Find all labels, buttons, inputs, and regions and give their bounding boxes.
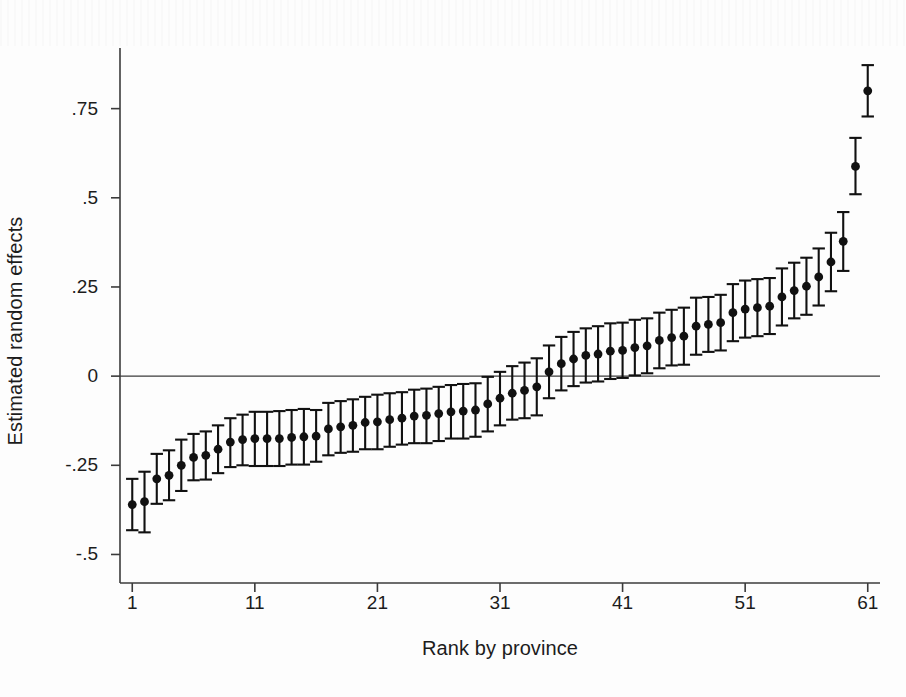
data-point-38 — [580, 328, 592, 382]
marker-11 — [250, 434, 259, 443]
x-axis-title: Rank by province — [120, 637, 880, 660]
data-point-15 — [298, 409, 310, 465]
marker-46 — [679, 332, 688, 341]
marker-30 — [483, 400, 492, 409]
data-point-53 — [763, 278, 775, 334]
marker-38 — [581, 351, 590, 360]
data-point-52 — [751, 279, 763, 336]
data-point-49 — [714, 295, 726, 351]
data-point-8 — [212, 425, 224, 473]
marker-17 — [324, 425, 333, 434]
marker-39 — [594, 350, 603, 359]
random-effects-series — [126, 65, 874, 532]
marker-48 — [704, 320, 713, 329]
marker-49 — [716, 318, 725, 327]
marker-55 — [790, 286, 799, 295]
marker-34 — [532, 382, 541, 391]
marker-44 — [655, 336, 664, 345]
x-tick-label-2: 21 — [347, 592, 407, 614]
marker-6 — [189, 453, 198, 462]
marker-43 — [643, 341, 652, 350]
x-tick-label-4: 41 — [593, 592, 653, 614]
data-point-5 — [175, 440, 187, 491]
data-point-31 — [494, 372, 506, 426]
data-point-19 — [347, 399, 359, 451]
data-point-11 — [249, 412, 261, 466]
marker-10 — [238, 435, 247, 444]
data-point-4 — [163, 450, 175, 500]
marker-31 — [496, 394, 505, 403]
marker-51 — [741, 305, 750, 314]
data-point-44 — [653, 313, 665, 369]
data-point-35 — [543, 345, 555, 398]
data-point-30 — [482, 377, 494, 432]
data-point-60 — [849, 138, 861, 194]
marker-9 — [226, 438, 235, 447]
data-point-50 — [727, 284, 739, 341]
y-axis-title: Estimated random effects — [0, 51, 30, 611]
marker-53 — [765, 302, 774, 311]
data-point-21 — [371, 395, 383, 450]
data-point-47 — [690, 298, 702, 355]
figure-container: -.5-.250.25.5.75 1112131415161 Estimated… — [0, 0, 906, 697]
data-point-48 — [702, 297, 714, 352]
data-point-2 — [138, 472, 150, 533]
marker-20 — [361, 418, 370, 427]
marker-19 — [349, 421, 358, 430]
y-tick-label-4: .5 — [28, 187, 98, 209]
marker-3 — [152, 474, 161, 483]
x-tick-label-1: 11 — [225, 592, 285, 614]
x-tick-label-3: 31 — [470, 592, 530, 614]
marker-60 — [851, 162, 860, 171]
marker-28 — [459, 407, 468, 416]
y-tick-label-5: .75 — [28, 98, 98, 120]
data-point-10 — [236, 415, 248, 466]
data-point-25 — [420, 389, 432, 444]
data-point-57 — [813, 248, 825, 305]
data-point-12 — [261, 412, 273, 466]
marker-58 — [827, 258, 836, 267]
plot-axes — [120, 48, 880, 583]
y-tick-label-2: 0 — [28, 365, 98, 387]
x-tick-label-0: 1 — [102, 592, 162, 614]
data-point-51 — [739, 281, 751, 338]
marker-33 — [520, 386, 529, 395]
marker-40 — [606, 347, 615, 356]
marker-24 — [410, 412, 419, 421]
marker-61 — [863, 86, 872, 95]
marker-1 — [128, 500, 137, 509]
marker-29 — [471, 406, 480, 415]
y-tick-label-1: -.25 — [28, 454, 98, 476]
data-point-1 — [126, 479, 138, 530]
marker-8 — [214, 445, 223, 454]
data-point-39 — [592, 326, 604, 381]
y-tick-label-3: .25 — [28, 276, 98, 298]
marker-26 — [434, 409, 443, 418]
marker-54 — [778, 293, 787, 302]
marker-36 — [557, 359, 566, 368]
data-point-34 — [531, 358, 543, 415]
marker-42 — [630, 343, 639, 352]
marker-57 — [814, 273, 823, 282]
marker-22 — [385, 415, 394, 424]
data-point-56 — [800, 258, 812, 315]
marker-15 — [299, 432, 308, 441]
marker-18 — [336, 422, 345, 431]
data-point-58 — [825, 233, 837, 291]
x-tick-label-6: 61 — [838, 592, 898, 614]
data-point-59 — [837, 212, 849, 271]
data-point-29 — [469, 383, 481, 437]
data-point-14 — [285, 410, 297, 465]
data-point-41 — [616, 323, 628, 378]
marker-52 — [753, 303, 762, 312]
marker-41 — [618, 346, 627, 355]
data-point-23 — [396, 392, 408, 444]
data-point-9 — [224, 418, 236, 467]
data-point-24 — [408, 390, 420, 444]
data-point-17 — [322, 403, 334, 455]
marker-45 — [667, 333, 676, 342]
data-point-42 — [629, 320, 641, 376]
data-point-18 — [334, 401, 346, 453]
data-point-45 — [665, 310, 677, 366]
data-point-37 — [567, 332, 579, 386]
